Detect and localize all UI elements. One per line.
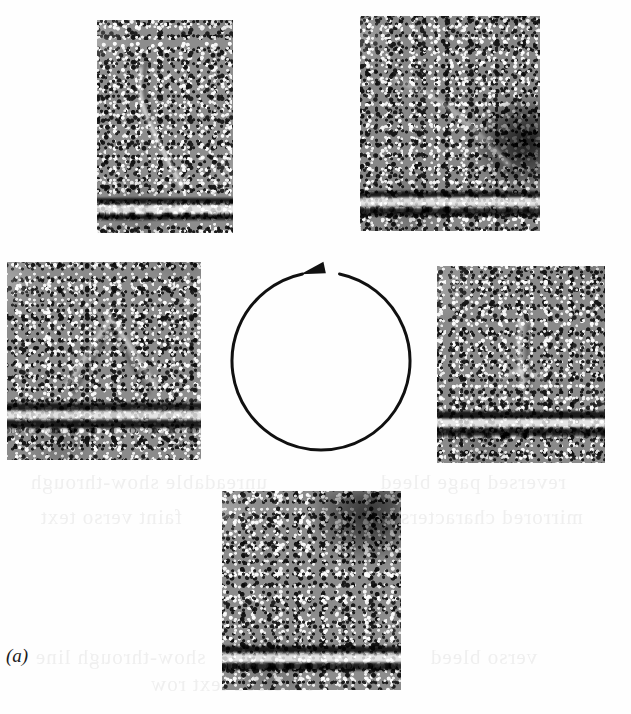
ghost-text-line: faint verso text [40,505,182,530]
micrograph-brightness-mottle [437,266,605,463]
cycle-arrow-circle [232,274,410,450]
cycle-arrowhead-icon [301,262,326,275]
ghost-text-line: mirrored characters [400,505,583,530]
micrograph-brightness-mottle [7,262,201,460]
micrograph-right [437,266,605,463]
ghost-text-line: reversed page bleed [380,470,566,495]
micrograph-top-left [97,20,233,233]
micrograph-bottom [222,491,401,690]
ghost-text-line: show-through line [35,645,205,670]
micrograph-left [7,262,201,460]
micrograph-top-right [360,16,540,231]
micrograph-brightness-mottle [360,16,540,231]
clockwise-cycle-arrow [217,257,425,465]
figure-a-root: unreadable show-throughreversed page ble… [0,0,631,714]
figure-panel-label: (a) [6,645,28,667]
ghost-text-line: verso bleed [430,645,537,670]
micrograph-brightness-mottle [222,491,401,690]
micrograph-brightness-mottle [97,20,233,233]
